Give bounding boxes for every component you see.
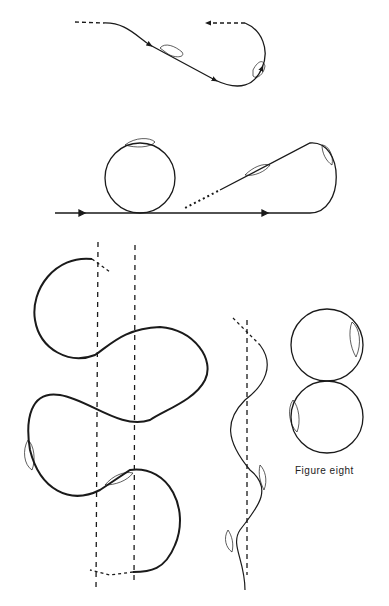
- figure-eight-label: Figure eight: [295, 465, 354, 476]
- diagram-canvas: [0, 0, 389, 606]
- s-turn-reversal-figure: [75, 22, 265, 86]
- zigzag-wave-figure: [225, 318, 267, 590]
- s-turns-across-road-figure: [25, 242, 208, 590]
- loop-and-teardrop-figure: [55, 139, 336, 216]
- figure-eight-figure: [290, 309, 363, 453]
